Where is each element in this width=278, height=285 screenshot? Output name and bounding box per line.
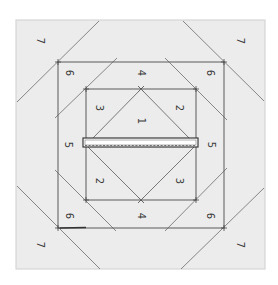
section-label-lower-left-2: 2 [94,178,105,184]
section-label-upper-right-2: 2 [174,105,185,111]
section-label-center-1: 1 [136,118,147,124]
section-label-right-5: 5 [206,142,217,148]
section-label-bottom-right-6: 6 [205,213,216,219]
section-label-top-4: 4 [136,70,147,76]
middle-square-bottom-mark [60,228,86,229]
section-label-bottom-right-7: 7 [235,242,246,248]
section-label-top-right-6: 6 [205,70,216,76]
section-label-left-5: 5 [63,142,74,148]
section-label-top-left-7: 7 [35,38,46,44]
center-bar [83,138,198,147]
section-label-bottom-4: 4 [136,213,147,219]
section-label-top-left-6: 6 [64,70,75,76]
quilt-block-diagram: 77776666445532123 [0,0,278,285]
section-label-lower-right-3: 3 [174,178,185,184]
section-label-bottom-left-7: 7 [35,242,46,248]
section-label-bottom-left-6: 6 [64,213,75,219]
section-label-top-right-7: 7 [235,38,246,44]
section-label-upper-left-3: 3 [94,105,105,111]
